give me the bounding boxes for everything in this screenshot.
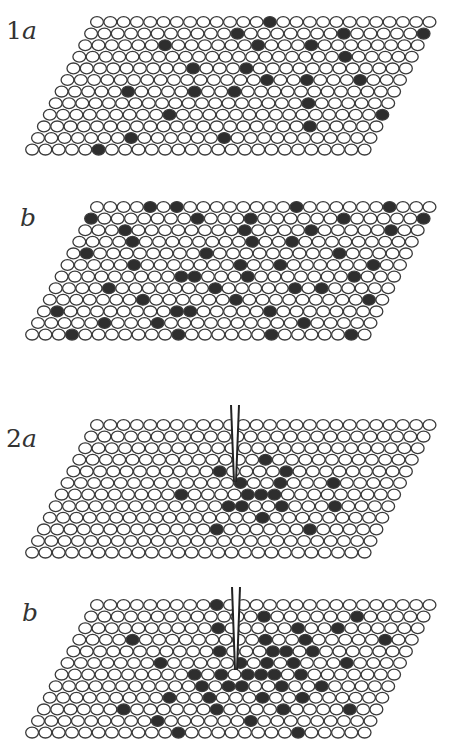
lattice-atom <box>43 294 56 305</box>
lattice-atom <box>385 623 398 634</box>
lattice-atom <box>51 524 64 535</box>
lattice-atom <box>205 536 218 547</box>
lattice-atom <box>258 536 271 547</box>
lattice-atom <box>337 431 350 442</box>
lattice-atom <box>67 248 80 259</box>
lattice-atom <box>128 75 141 86</box>
lattice-atom <box>106 329 119 340</box>
lattice-atom <box>197 420 210 431</box>
lattice-atom <box>197 306 210 317</box>
lattice-atom <box>74 260 87 271</box>
lattice-atom <box>386 63 399 74</box>
lattice-atom <box>79 727 92 738</box>
lattice-atom <box>162 271 175 282</box>
lattice-atom <box>284 536 297 547</box>
lattice-atom <box>357 704 370 715</box>
lattice-atom <box>239 547 252 558</box>
lattice-atom <box>91 17 104 28</box>
lattice-atom <box>172 547 185 558</box>
adatom-filled <box>268 669 281 680</box>
lattice-atom <box>244 611 257 622</box>
lattice-atom <box>326 634 339 645</box>
lattice-atom <box>194 478 207 489</box>
lattice-atom <box>82 669 95 680</box>
lattice-atom <box>88 260 101 271</box>
lattice-atom <box>286 454 299 465</box>
lattice-atom <box>295 489 308 500</box>
lattice-atom <box>119 547 132 558</box>
lattice-atom <box>301 260 314 271</box>
lattice-atom <box>278 144 291 155</box>
lattice-atom <box>278 329 291 340</box>
lattice-atom <box>398 623 411 634</box>
lattice-atom <box>131 306 144 317</box>
lattice-atom <box>119 40 132 51</box>
lattice-atom <box>332 144 345 155</box>
lattice-atom <box>357 600 370 611</box>
lattice-atom <box>351 536 364 547</box>
lattice-atom <box>190 512 203 523</box>
lattice-atom <box>117 202 130 213</box>
lattice-atom <box>111 431 124 442</box>
lattice-atom <box>342 98 355 109</box>
lattice-atom <box>107 646 120 657</box>
adatom-filled <box>376 109 389 120</box>
lattice-atom <box>258 431 271 442</box>
lattice-atom <box>367 478 380 489</box>
lattice-atom <box>85 536 98 547</box>
lattice-atom <box>178 716 191 727</box>
lattice-atom <box>165 28 178 39</box>
lattice-atom <box>117 420 130 431</box>
lattice-atom <box>330 524 343 535</box>
lattice-atom <box>270 512 283 523</box>
lattice-atom <box>246 454 259 465</box>
lattice-atom <box>104 121 117 132</box>
lattice-atom <box>290 17 303 28</box>
lattice-atom <box>73 51 86 62</box>
lattice-atom <box>221 75 234 86</box>
lattice-atom <box>298 213 311 224</box>
lattice-atom <box>83 109 96 120</box>
lattice-atom <box>318 623 331 634</box>
lattice-atom <box>321 271 334 282</box>
lattice-atom <box>188 489 201 500</box>
lattice-atom <box>358 623 371 634</box>
lattice-atom <box>287 75 300 86</box>
lattice-atom <box>318 144 331 155</box>
adatom-filled <box>367 260 380 271</box>
lattice-atom <box>197 600 210 611</box>
lattice-atom <box>154 478 167 489</box>
lattice-atom <box>64 704 77 715</box>
lattice-atom <box>66 144 79 155</box>
lattice-atom <box>63 501 76 512</box>
lattice-atom <box>98 431 111 442</box>
lattice-atom <box>332 727 345 738</box>
lattice-atom <box>138 716 151 727</box>
lattice-atom <box>400 466 413 477</box>
lattice-atom <box>296 294 309 305</box>
lattice-atom <box>97 294 110 305</box>
lattice-atom <box>237 17 250 28</box>
lattice-atom <box>281 669 294 680</box>
lattice-atom <box>293 63 306 74</box>
lattice-atom <box>231 318 244 329</box>
lattice-atom <box>336 512 349 523</box>
lattice-atom <box>250 420 263 431</box>
lattice-atom <box>185 144 198 155</box>
lattice-atom <box>231 716 244 727</box>
lattice-atom <box>107 248 120 259</box>
lattice-atom <box>340 478 353 489</box>
lattice-atom <box>290 524 303 535</box>
adatom-filled <box>244 716 257 727</box>
lattice-atom <box>193 454 206 465</box>
lattice-atom <box>311 611 324 622</box>
lattice-atom <box>38 524 51 535</box>
lattice-atom <box>290 306 303 317</box>
lattice-atom <box>250 524 263 535</box>
lattice-atom <box>138 133 151 144</box>
lattice-atom <box>104 704 117 715</box>
lattice-atom <box>352 634 365 645</box>
adatom-filled <box>184 306 197 317</box>
lattice-atom <box>200 466 213 477</box>
lattice-atom <box>388 669 401 680</box>
